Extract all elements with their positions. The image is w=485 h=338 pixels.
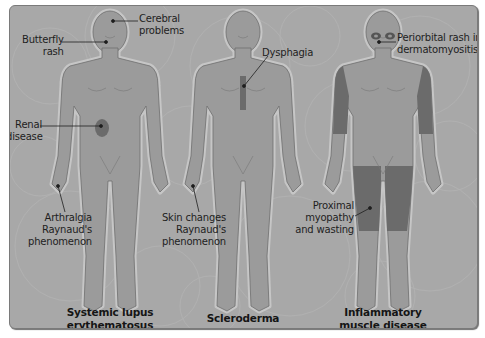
label-skin-changes-raynauds: Skin changes Raynaud's phenomenon	[144, 212, 226, 248]
label-periorbital-rash: Periorbital rash in dermatomyositis	[397, 32, 478, 56]
diagram-panel: Butterfly rash Cerebral problems Renal d…	[9, 5, 478, 329]
label-butterfly-rash: Butterfly rash	[22, 34, 64, 58]
label-arthralgia-raynauds: Arthralgia Raynaud's phenomenon	[10, 212, 92, 248]
body-inflammatory	[325, 11, 441, 311]
label-renal-disease: Renal disease	[9, 119, 42, 143]
caption-inflammatory-muscle: Inflammatory muscle disease	[328, 306, 438, 329]
label-cerebral-problems: Cerebral problems	[139, 13, 184, 37]
caption-sle: Systemic lupus erythematosus	[55, 306, 165, 329]
label-dysphagia: Dysphagia	[262, 47, 313, 59]
caption-scleroderma: Scleroderma	[188, 312, 298, 325]
label-proximal-myopathy: Proximal myopathy and wasting	[282, 200, 354, 236]
